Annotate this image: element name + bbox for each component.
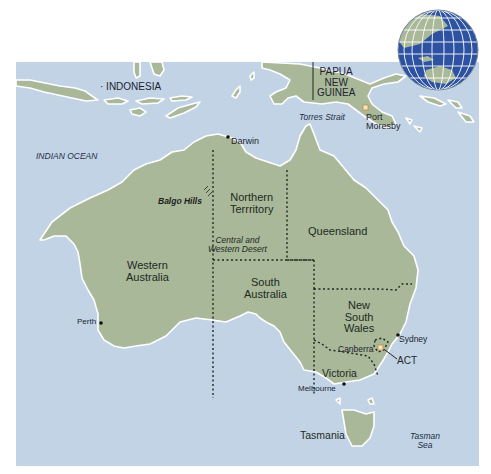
label-papua-new-guinea: PAPUA NEW GUINEA — [317, 67, 355, 99]
label-victoria: Victoria — [322, 368, 357, 379]
label-indonesia: · INDONESIA — [100, 82, 161, 93]
darwin-marker — [226, 135, 230, 139]
label-port-moresby: Port Moresby — [366, 113, 401, 132]
label-indian-ocean: INDIAN OCEAN — [36, 152, 97, 161]
port-moresby-capital-marker — [363, 105, 368, 110]
melbourne-marker — [342, 382, 346, 386]
label-tasman-sea: Tasman Sea — [410, 432, 440, 450]
label-torres-strait: Torres Strait — [299, 113, 345, 122]
label-balgo-hills: Balgo Hills — [158, 197, 202, 206]
label-perth: Perth — [77, 318, 96, 326]
label-western-australia: Western Australia — [126, 260, 169, 283]
label-northern-territory: Northern Terrritory — [230, 192, 273, 215]
label-melbourne: Melbourne — [298, 385, 336, 393]
label-darwin: Darwin — [231, 137, 259, 146]
label-central-western-desert: Central and Western Desert — [208, 236, 267, 254]
label-act: ACT — [397, 356, 417, 367]
label-sydney: Sydney — [399, 335, 427, 344]
label-tasmania: Tasmania — [300, 430, 345, 441]
label-new-south-wales: New South Wales — [344, 300, 374, 335]
island-flinders — [368, 398, 374, 404]
label-south-australia: South Australia — [244, 277, 287, 300]
canberra-capital-marker — [378, 345, 383, 350]
label-canberra: Canberra — [338, 345, 373, 354]
globe-locator-icon — [398, 10, 478, 90]
island-sulawesi-s — [134, 62, 140, 78]
label-queensland: Queensland — [308, 226, 367, 238]
perth-marker — [99, 321, 103, 325]
